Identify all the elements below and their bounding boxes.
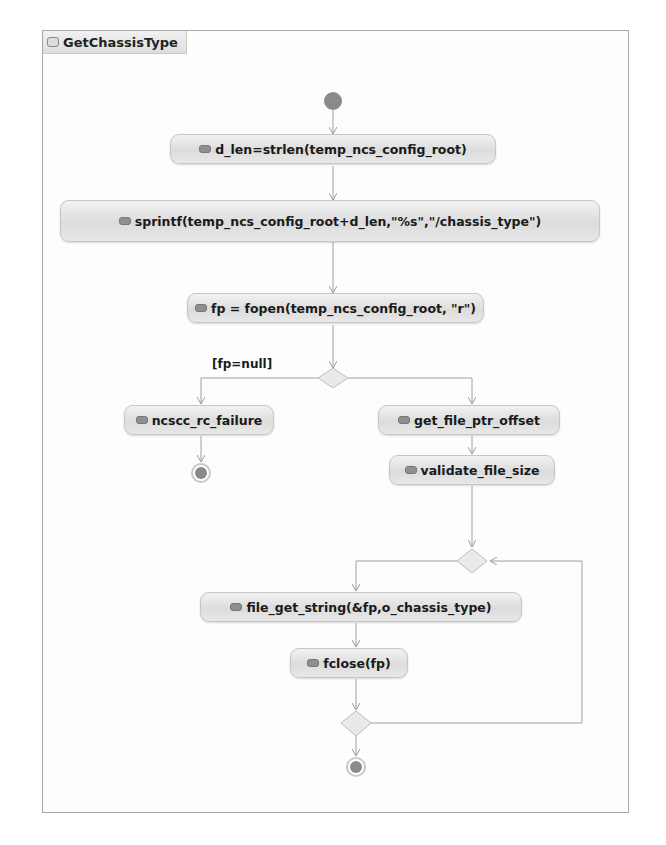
- action-icon: [307, 659, 319, 667]
- final-node-end[interactable]: [346, 757, 366, 777]
- decision-node-fopen: [318, 368, 348, 388]
- action-label: d_len=strlen(temp_ncs_config_root): [215, 142, 466, 157]
- action-label: fp = fopen(temp_ncs_config_root, "r"): [211, 301, 476, 316]
- action-icon: [119, 217, 131, 225]
- action-node-strlen[interactable]: d_len=strlen(temp_ncs_config_root): [170, 134, 496, 164]
- action-icon: [230, 603, 242, 611]
- action-node-get-file-ptr-offset[interactable]: get_file_ptr_offset: [378, 405, 560, 435]
- merge-node-loop: [457, 549, 487, 573]
- action-icon: [136, 416, 148, 424]
- action-label: get_file_ptr_offset: [414, 413, 540, 428]
- action-label: ncscc_rc_failure: [152, 413, 263, 428]
- action-node-ncscc-rc-failure[interactable]: ncscc_rc_failure: [124, 405, 274, 435]
- action-label: sprintf(temp_ncs_config_root+d_len,"%s",…: [135, 214, 541, 229]
- action-icon: [405, 466, 417, 474]
- action-node-file-get-string[interactable]: file_get_string(&fp,o_chassis_type): [200, 592, 522, 622]
- final-node-dot: [350, 761, 362, 773]
- action-icon: [195, 304, 207, 312]
- action-node-sprintf[interactable]: sprintf(temp_ncs_config_root+d_len,"%s",…: [60, 200, 600, 242]
- final-node-dot: [195, 467, 207, 479]
- action-node-fopen[interactable]: fp = fopen(temp_ncs_config_root, "r"): [187, 293, 484, 323]
- action-label: validate_file_size: [421, 463, 540, 478]
- action-icon: [398, 416, 410, 424]
- final-node-failure[interactable]: [191, 463, 211, 483]
- decision-node-loop-end: [341, 711, 371, 736]
- action-node-validate-file-size[interactable]: validate_file_size: [389, 455, 555, 485]
- action-label: file_get_string(&fp,o_chassis_type): [246, 600, 491, 615]
- action-label: fclose(fp): [323, 656, 390, 671]
- edges-layer: [0, 0, 666, 845]
- action-icon: [199, 145, 211, 153]
- action-node-fclose[interactable]: fclose(fp): [290, 648, 408, 678]
- guard-fp-null: [fp=null]: [212, 357, 272, 371]
- initial-node[interactable]: [324, 92, 342, 110]
